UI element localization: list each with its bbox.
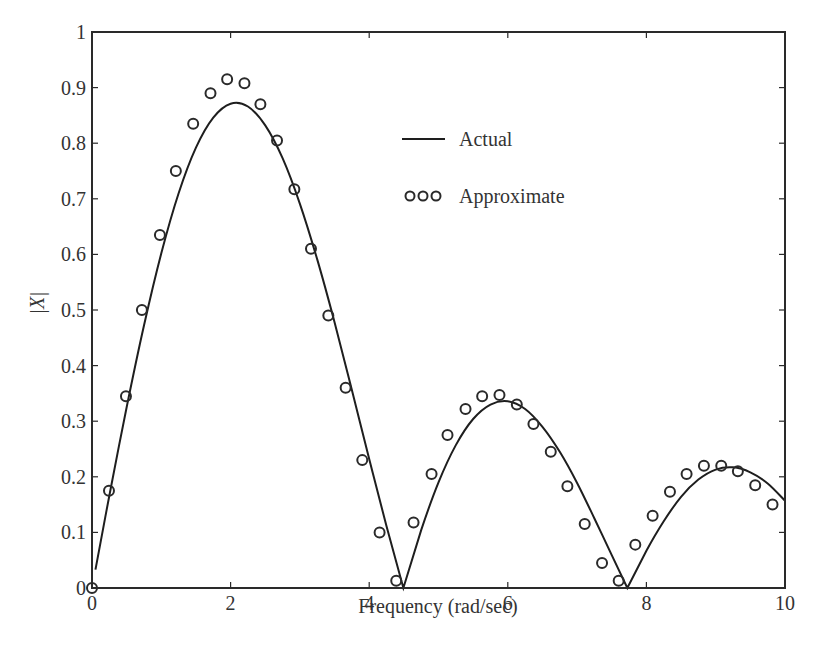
y-tick-label: 0.9	[61, 77, 86, 99]
approximate-point	[341, 383, 351, 393]
actual-curve	[95, 103, 785, 588]
approximate-point	[222, 74, 232, 84]
y-tick-label: 0.5	[61, 299, 86, 321]
legend: Actual Approximate	[402, 128, 565, 208]
approximate-point	[409, 517, 419, 527]
y-axis-label: |X|	[26, 291, 49, 314]
approximate-point	[155, 230, 165, 240]
y-tick-label: 0.3	[61, 410, 86, 432]
y-tick-label: 0.4	[61, 355, 86, 377]
legend-label-actual: Actual	[459, 128, 513, 150]
approximate-point	[375, 527, 385, 537]
axis-tick-labels: 024681000.10.20.30.40.50.60.70.80.91	[61, 21, 795, 614]
approximate-point	[357, 455, 367, 465]
series-approximate-markers	[87, 74, 778, 593]
approximate-point	[750, 480, 760, 490]
x-axis-label: Frequency (rad/sec)	[358, 595, 517, 618]
approximate-point	[188, 119, 198, 129]
approximate-point	[528, 419, 538, 429]
approximate-point	[206, 88, 216, 98]
approximate-point	[768, 500, 778, 510]
x-tick-label: 0	[87, 592, 97, 614]
plot-frame	[92, 32, 785, 588]
approximate-point	[494, 390, 504, 400]
approximate-point	[461, 404, 471, 414]
y-tick-label: 0.1	[61, 521, 86, 543]
approximate-point	[255, 99, 265, 109]
y-tick-label: 0	[76, 577, 86, 599]
approximate-point	[391, 576, 401, 586]
legend-circles-icon	[406, 192, 441, 201]
approximate-point	[239, 78, 249, 88]
approximate-point	[137, 305, 147, 315]
approximate-point	[682, 469, 692, 479]
y-tick-label: 1	[76, 21, 86, 43]
series-actual-line	[95, 103, 785, 588]
approximate-point	[665, 487, 675, 497]
approximate-point	[427, 469, 437, 479]
approximate-point	[477, 391, 487, 401]
approximate-point	[699, 461, 709, 471]
approximate-point	[630, 540, 640, 550]
x-tick-label: 8	[641, 592, 651, 614]
legend-label-approximate: Approximate	[459, 185, 565, 208]
approximate-point	[546, 447, 556, 457]
approximate-point	[580, 519, 590, 529]
y-tick-label: 0.8	[61, 132, 86, 154]
y-tick-label: 0.7	[61, 188, 86, 210]
approximate-point	[716, 461, 726, 471]
approximate-point	[171, 166, 181, 176]
approximate-point	[597, 558, 607, 568]
y-tick-label: 0.2	[61, 466, 86, 488]
x-tick-label: 10	[775, 592, 795, 614]
y-tick-label: 0.6	[61, 243, 86, 265]
x-tick-label: 2	[226, 592, 236, 614]
approximate-point	[614, 576, 624, 586]
axis-ticks	[92, 32, 785, 588]
approximate-point	[648, 511, 658, 521]
chart: 024681000.10.20.30.40.50.60.70.80.91 Act…	[0, 0, 815, 662]
approximate-point	[562, 481, 572, 491]
approximate-point	[443, 430, 453, 440]
